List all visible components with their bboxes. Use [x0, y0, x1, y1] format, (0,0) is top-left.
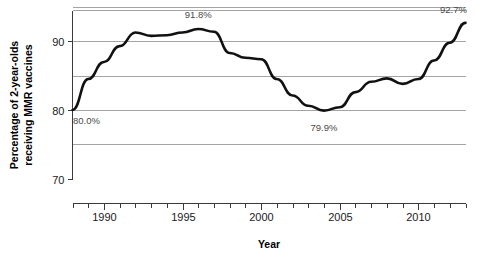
x-tick-label-2005: 2005 [328, 211, 352, 223]
y-tick-label-90: 90 [52, 36, 64, 48]
line-chart: 908070 19901995200020052010 80.0%91.8%79… [0, 0, 477, 258]
chart-container: 908070 19901995200020052010 80.0%91.8%79… [0, 0, 477, 258]
y-axis-title-line1: Percentage of 2-year-olds [8, 41, 20, 170]
y-tick-label-80: 80 [52, 105, 64, 117]
x-tick-label-1990: 1990 [92, 211, 116, 223]
x-axis-title: Year [258, 238, 280, 250]
y-tick-label-70: 70 [52, 174, 64, 186]
data-label-91-8pct: 91.8% [185, 9, 212, 20]
y-axis-title-line2: receiving MMR vaccines [22, 44, 34, 166]
data-label-79-9pct: 79.9% [311, 122, 338, 133]
data-label-92-7pct: 92.7% [440, 4, 467, 15]
x-tick-label-1995: 1995 [171, 211, 195, 223]
x-tick-label-2000: 2000 [249, 211, 273, 223]
x-tick-label-2010: 2010 [406, 211, 430, 223]
data-label-80-0pct: 80.0% [73, 115, 100, 126]
